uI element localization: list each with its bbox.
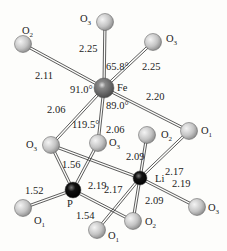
measurement-label: 65.8° (106, 61, 129, 72)
measurement-label: 2.09 (126, 151, 144, 162)
measurement-label: 2.25 (142, 61, 160, 72)
atom-Fe (94, 78, 114, 98)
atom-O3e (189, 199, 206, 216)
measurement-label: 2.20 (146, 91, 164, 102)
atom-label-O1c: O1 (108, 230, 120, 244)
atom-O2b (139, 127, 156, 144)
measurement-label: 2.06 (106, 124, 124, 135)
atom-P (65, 182, 81, 198)
atom-label-O2c: O2 (145, 216, 157, 230)
atom-label-O3c: O3 (26, 139, 38, 153)
structure-svg: FeLiPO2O3O3O1O3O3O2O3O2O1O12.252.112.252… (0, 0, 227, 251)
measurement-label: 2.06 (47, 104, 65, 115)
atom-label-O2b: O2 (161, 129, 173, 143)
atom-O1c (89, 222, 106, 239)
atom-label-O1a: O1 (201, 125, 213, 139)
atom-label-O3a: O3 (80, 13, 92, 27)
atom-label-P: P (67, 198, 73, 209)
atom-O2c (125, 213, 142, 230)
atom-O3c (43, 137, 60, 154)
atom-label-O3d: O3 (109, 137, 121, 151)
atom-label-Fe: Fe (117, 82, 128, 93)
atom-O3a (97, 14, 114, 31)
atom-O3d (90, 135, 107, 152)
atom-Li (133, 171, 147, 185)
atom-O3b (145, 34, 162, 51)
atom-label-O3e: O3 (208, 202, 220, 216)
measurement-label: 1.54 (76, 210, 95, 221)
measurement-label: 2.17 (104, 184, 122, 195)
atom-O1a (181, 123, 198, 140)
measurement-label: 2.09 (145, 195, 163, 206)
measurement-label: 89.0° (106, 100, 129, 111)
atom-O1b (15, 200, 32, 217)
measurement-label: 1.56 (62, 159, 80, 170)
measurement-label: 91.0° (70, 84, 93, 95)
measurement-label: 1.52 (25, 185, 43, 196)
atom-label-Li: Li (155, 173, 164, 184)
measurement-label: 119.5° (72, 119, 99, 130)
atom-label-O1b: O1 (34, 215, 46, 229)
atom-label-O3b: O3 (166, 33, 178, 47)
crystal-structure-diagram: FeLiPO2O3O3O1O3O3O2O3O2O1O12.252.112.252… (0, 0, 227, 251)
measurement-label: 2.25 (79, 43, 97, 54)
measurement-label: 2.17 (165, 166, 183, 177)
measurement-label: 2.19 (172, 178, 190, 189)
measurement-label: 2.11 (35, 70, 53, 81)
